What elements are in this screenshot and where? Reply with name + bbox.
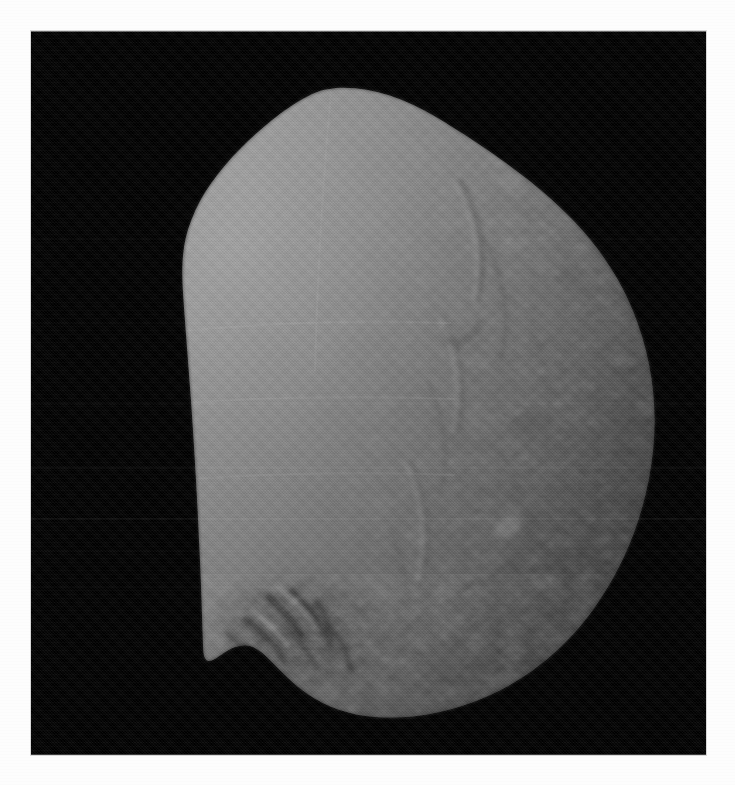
figure-caption (31, 762, 706, 780)
body-surface (31, 31, 706, 755)
astronomy-image-frame (31, 31, 706, 755)
small-body-render (31, 31, 706, 755)
body-svg (31, 31, 706, 755)
scanned-page (0, 0, 735, 785)
frame-edge-bottom (31, 754, 706, 755)
limb-darkening (31, 31, 706, 755)
